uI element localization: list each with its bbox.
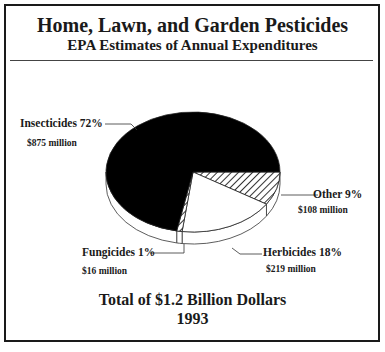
label-fungicides: Fungicides 1%	[82, 246, 155, 258]
amount-other: $108 million	[298, 205, 348, 215]
amount-fungicides: $16 million	[82, 266, 127, 276]
footer-year: 1993	[0, 310, 385, 328]
label-insecticides: Insecticides 72%	[20, 117, 103, 129]
label-herbicides: Herbicides 18%	[263, 246, 342, 258]
leader-herbicides	[232, 248, 262, 254]
footer-total: Total of $1.2 Billion Dollars	[0, 291, 385, 309]
pie-side-fungicides	[177, 231, 182, 244]
amount-herbicides: $219 million	[266, 264, 316, 274]
label-other: Other 9%	[313, 188, 362, 200]
amount-insecticides: $875 million	[27, 138, 77, 148]
